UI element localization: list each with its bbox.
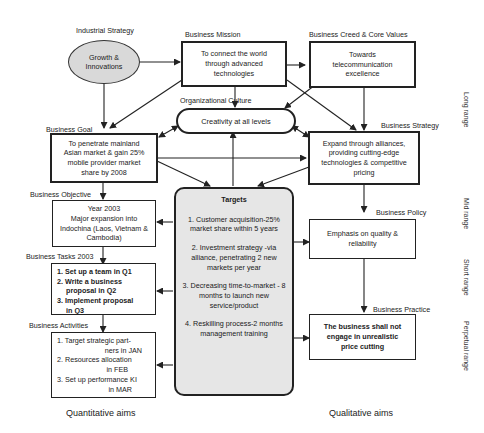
target-item-4: 4. Reskilling process-2 months managemen… (182, 319, 286, 338)
range-label-mid: Mid range (463, 198, 470, 229)
strategy-hierarchy-diagram: Industrial Strategy Growth & Innovations… (0, 0, 484, 433)
business-mission-text: To connect the world through advanced te… (193, 49, 275, 78)
target-item-1: 1. Customer acquisition-25% market share… (182, 215, 286, 234)
industrial-strategy-ellipse: Growth & Innovations (68, 40, 140, 84)
objective-line-4: Cambodia) (86, 233, 121, 243)
business-strategy-text: Expand through alliances, providing cutt… (316, 139, 412, 178)
objective-line-1: Year 2003 (88, 204, 121, 214)
business-goal-box: To penetrate mainland Asian market & gai… (50, 133, 158, 183)
objective-line-2: Major expansion into (71, 214, 137, 224)
task-item-3: 3. Implement proposal (57, 296, 150, 306)
organizational-culture-text: Creativity at all levels (201, 117, 270, 126)
activity-item-2: 2. Resources allocation (57, 355, 150, 365)
task-item-3-cont: in Q3 (57, 306, 150, 316)
quantitative-aims-label: Quantitative aims (66, 408, 136, 418)
business-activities-heading: Business Activities (29, 322, 88, 329)
business-tasks-box: 1. Set up a team in Q1 2. Write a busine… (51, 263, 156, 315)
activity-item-2-cont: in FEB (57, 365, 150, 375)
business-tasks-heading: Business Tasks 2003 (26, 253, 93, 260)
business-policy-text: Emphasis on quality & reliability (323, 229, 403, 248)
organizational-culture-pill: Creativity at all levels (176, 108, 296, 134)
industrial-strategy-text: Growth & Innovations (79, 53, 129, 72)
business-creed-heading: Business Creed & Core Values (309, 31, 408, 38)
range-label-perpetual: Perpetual range (463, 321, 470, 371)
business-strategy-box: Expand through alliances, providing cutt… (308, 131, 420, 185)
activity-item-3: 3. Set up performance KI (57, 375, 150, 385)
target-item-3: 3. Decreasing time-to-market - 8 months … (182, 281, 286, 310)
business-practice-heading: Business Practice (373, 306, 430, 313)
task-item-1: 1. Set up a team in Q1 (57, 267, 150, 277)
business-practice-text: The business shall not engage in unreali… (320, 322, 406, 351)
targets-heading: Targets (182, 195, 286, 205)
range-label-long: Long range (463, 92, 470, 127)
industrial-strategy-heading: Industrial Strategy (76, 27, 134, 34)
business-practice-box: The business shall not engage in unreali… (309, 314, 416, 360)
organizational-culture-heading: Organizational Culture (180, 97, 252, 104)
business-policy-heading: Business Policy (376, 209, 426, 216)
target-item-2: 2. Investment strategy -via alliance, pe… (182, 243, 286, 272)
business-mission-box: To connect the world through advanced te… (181, 41, 287, 87)
activity-item-3-cont: in MAR (57, 385, 150, 395)
qualitative-aims-label: Qualitative aims (329, 408, 393, 418)
business-activities-box: 1. Target strategic part- ners in JAN 2.… (51, 332, 156, 398)
business-goal-text: To penetrate mainland Asian market & gai… (60, 139, 148, 178)
business-creed-box: Towards telecommunication excellence (309, 41, 416, 88)
range-label-short: Short range (463, 259, 470, 296)
task-item-2: 2. Write a business (57, 277, 150, 287)
activity-item-1-cont: ners in JAN (57, 346, 150, 356)
business-objective-heading: Business Objective (30, 191, 91, 198)
business-objective-box: Year 2003 Major expansion into Indochina… (52, 200, 156, 247)
objective-line-3: Indochina (Laos, Vietnam & (60, 224, 148, 234)
business-policy-box: Emphasis on quality & reliability (309, 219, 416, 259)
business-strategy-heading: Business Strategy (381, 122, 439, 129)
business-mission-heading: Business Mission (185, 31, 241, 38)
business-creed-text: Towards telecommunication excellence (323, 50, 403, 79)
task-item-2-cont: proposal in Q2 (57, 286, 150, 296)
targets-box: Targets 1. Customer acquisition-25% mark… (174, 187, 294, 396)
activity-item-1: 1. Target strategic part- (57, 336, 150, 346)
